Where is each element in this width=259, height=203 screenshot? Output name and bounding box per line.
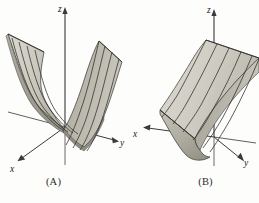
figure-panel-a: z y x (A): [0, 0, 129, 203]
panel-a-x-label: x: [9, 164, 15, 174]
x-axis-arrowhead: [143, 125, 150, 131]
panel-a-z-label: z: [57, 4, 62, 14]
panel-b-caption: (B): [160, 176, 251, 187]
z-axis-arrowhead: [211, 9, 216, 16]
panel-a-caption: (A): [8, 176, 99, 187]
figure-panel-b: z y x (B): [130, 0, 259, 203]
panel-a-y-label: y: [119, 138, 125, 148]
x-axis-line: [22, 127, 65, 158]
figure-root: z y x (A): [0, 0, 259, 203]
x-axis-arrowhead: [18, 155, 26, 161]
panel-b-z-label: z: [206, 5, 211, 15]
z-axis-arrowhead: [62, 7, 67, 14]
y-axis-arrowhead: [112, 137, 119, 143]
panel-a-graphic: z y x: [0, 0, 129, 178]
panel-b-graphic: z y x: [130, 0, 259, 178]
panel-b-y-label: y: [243, 158, 249, 168]
panel-b-x-label: x: [132, 129, 138, 139]
